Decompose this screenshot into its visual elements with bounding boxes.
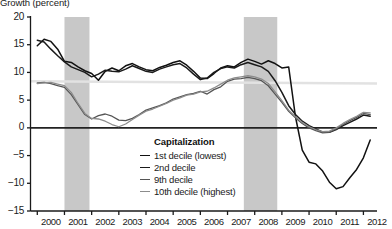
legend-line-swatch <box>140 167 150 168</box>
x-tick-label: 2008 <box>253 216 283 227</box>
y-tick-label: 15 <box>2 38 24 49</box>
legend-item-label: 1st decile (lowest) <box>154 150 226 161</box>
x-tick-label: 2012 <box>362 216 392 227</box>
x-tick-label: 2009 <box>280 216 310 227</box>
x-tick-label: 2002 <box>90 216 120 227</box>
legend-item-label: 10th decile (highest) <box>154 186 235 197</box>
legend-item: 9th decile <box>140 173 235 185</box>
legend-item: 2nd decile <box>140 161 235 173</box>
legend-line-swatch <box>140 155 150 156</box>
chart-legend: Capitalization 1st decile (lowest)2nd de… <box>140 136 235 197</box>
x-tick-label: 2007 <box>226 216 256 227</box>
legend-line-swatch <box>140 191 150 192</box>
x-tick-label: 2004 <box>145 216 175 227</box>
legend-item: 1st decile (lowest) <box>140 149 235 161</box>
legend-item-label: 9th decile <box>154 174 193 185</box>
x-tick-label: 2010 <box>308 216 338 227</box>
legend-items: 1st decile (lowest)2nd decile9th decile1… <box>140 149 235 197</box>
legend-item: 10th decile (highest) <box>140 185 235 197</box>
x-tick-label: 2006 <box>199 216 229 227</box>
y-tick-label: −5 <box>2 149 24 160</box>
y-tick-label: −15 <box>2 205 24 216</box>
y-tick-label: 20 <box>2 11 24 22</box>
legend-item-label: 2nd decile <box>154 162 195 173</box>
x-tick-label: 2000 <box>36 216 66 227</box>
legend-title: Capitalization <box>154 136 235 147</box>
x-tick-label: 2003 <box>117 216 147 227</box>
y-tick-label: 0 <box>2 121 24 132</box>
x-tick-label: 2001 <box>63 216 93 227</box>
legend-line-swatch <box>140 179 150 180</box>
y-tick-label: 10 <box>2 66 24 77</box>
y-tick-label: 5 <box>2 94 24 105</box>
y-tick-label: −10 <box>2 177 24 188</box>
x-tick-label: 2005 <box>172 216 202 227</box>
x-tick-label: 2011 <box>335 216 365 227</box>
